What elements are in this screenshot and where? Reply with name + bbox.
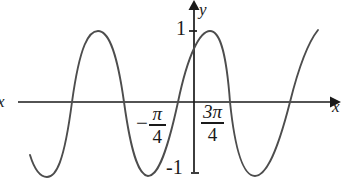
fraction-denominator: 4 (151, 126, 165, 146)
graph-figure: x x y 1 -1 − π 4 3π 4 (0, 0, 344, 187)
y-tick-label-negative-one: -1 (166, 157, 183, 177)
x-axis-label-left: x (0, 93, 5, 110)
x-tick-label-neg-pi-over-4: − π 4 (136, 104, 166, 146)
fraction-numerator: 3π (201, 102, 224, 122)
y-axis-arrow-icon (189, 0, 200, 10)
fraction-denominator: 4 (206, 124, 220, 144)
y-axis-label: y (199, 1, 207, 18)
minus-sign: − (136, 113, 148, 134)
y-tick-label-one: 1 (176, 18, 186, 38)
x-axis-label-right: x (332, 98, 340, 115)
fraction-stack: π 4 (149, 104, 166, 146)
fraction-stack: 3π 4 (201, 102, 224, 144)
fraction-numerator: π (151, 104, 165, 124)
x-tick-label-3pi-over-4: 3π 4 (201, 102, 224, 144)
sine-curve (30, 30, 318, 177)
